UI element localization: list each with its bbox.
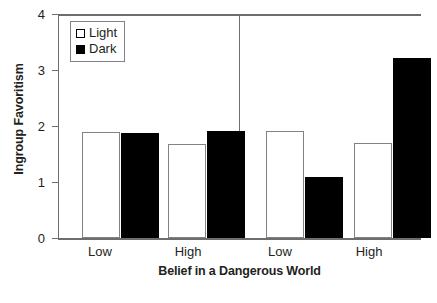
y-tick-label-2: 2 bbox=[23, 120, 45, 133]
legend-label-light: Light bbox=[89, 26, 117, 40]
bar-group-4-light bbox=[354, 143, 392, 238]
bar-group-1-light bbox=[82, 132, 120, 238]
bar-group-1-dark bbox=[121, 133, 159, 238]
y-tick-label-3: 3 bbox=[23, 64, 45, 77]
bar-group-2-light bbox=[168, 144, 206, 238]
dark-square-icon bbox=[76, 45, 85, 54]
x-axis-title: Belief in a Dangerous World bbox=[58, 264, 421, 278]
bar-group-4-dark bbox=[393, 58, 431, 238]
legend-label-dark: Dark bbox=[89, 42, 116, 56]
x-tick-label-2: High bbox=[148, 244, 228, 259]
bar-group-2-dark bbox=[207, 131, 245, 238]
bar-chart-figure: Ingroup Favoritism 4 3 2 1 0 Low High Lo… bbox=[0, 0, 437, 303]
bar-group-3-dark bbox=[305, 177, 343, 238]
y-tick-label-0: 0 bbox=[23, 232, 45, 245]
y-axis-title: Ingroup Favoritism bbox=[12, 19, 26, 219]
x-tick-label-3: Low bbox=[240, 244, 320, 259]
bar-group-3-light bbox=[266, 131, 304, 238]
y-tick-label-1: 1 bbox=[23, 176, 45, 189]
light-square-icon bbox=[76, 29, 85, 38]
legend-item-light: Light bbox=[76, 25, 117, 41]
y-tick-label-4: 4 bbox=[23, 8, 45, 21]
x-tick-label-4: High bbox=[329, 244, 409, 259]
legend-item-dark: Dark bbox=[76, 41, 117, 57]
x-tick-label-1: Low bbox=[60, 244, 140, 259]
chart-legend: Light Dark bbox=[70, 21, 125, 62]
